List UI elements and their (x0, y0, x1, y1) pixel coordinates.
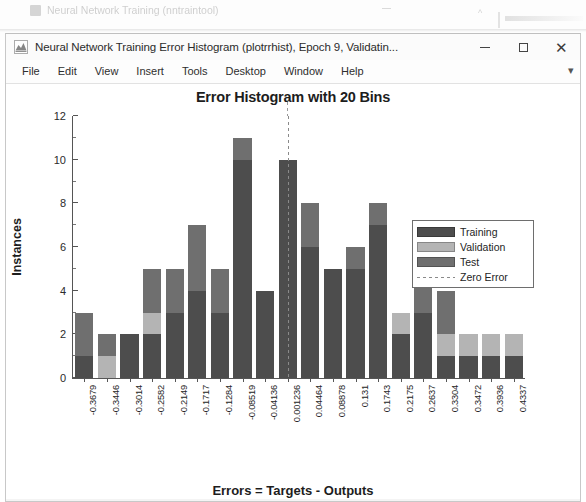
x-tick-label: -0.04136 (269, 385, 279, 420)
histogram-bar[interactable] (346, 247, 364, 378)
bar-segment-training (392, 334, 410, 378)
close-button[interactable]: ✕ (542, 34, 580, 60)
x-tick-mark (446, 378, 447, 382)
x-tick-label: -0.3679 (88, 385, 98, 415)
bar-segment-validation (482, 334, 500, 356)
histogram-bar[interactable] (256, 291, 274, 378)
close-icon: ✕ (555, 40, 568, 55)
minimize-icon (480, 47, 490, 48)
histogram-bar[interactable] (505, 334, 523, 378)
menu-overflow-icon[interactable]: ▾ (568, 64, 574, 77)
y-tick-label: 0 (60, 372, 66, 384)
histogram-bar[interactable] (120, 334, 138, 378)
x-tick-mark (469, 378, 470, 382)
legend-swatch-training (417, 227, 455, 237)
x-tick-mark (378, 378, 379, 382)
menu-item-help[interactable]: Help (332, 60, 373, 83)
background-minimize-icon (382, 8, 391, 9)
menu-item-window[interactable]: Window (275, 60, 332, 83)
x-tick-label: -0.2149 (179, 385, 189, 415)
histogram-bar[interactable] (166, 269, 184, 378)
minimize-button[interactable] (466, 34, 504, 60)
x-tick-label: 0.1743 (382, 385, 392, 412)
bar-segment-training (505, 356, 523, 378)
histogram-bar[interactable] (211, 269, 229, 378)
bar-segment-validation (143, 313, 161, 335)
y-tick-mark (73, 290, 78, 291)
bar-segment-test (301, 203, 319, 247)
chart-legend: Training Validation Test Zero Error (412, 220, 534, 288)
y-tick-mark (73, 115, 78, 116)
x-tick-mark (130, 378, 131, 382)
x-tick-mark (107, 378, 108, 382)
figure-canvas: Error Histogram with 20 Bins Instances 0… (6, 84, 580, 502)
x-tick-label: 0.3936 (495, 385, 505, 412)
legend-row-training: Training (417, 224, 529, 239)
figure-window: Neural Network Training Error Histogram … (5, 33, 581, 502)
window-title: Neural Network Training Error Histogram … (35, 41, 466, 53)
window-controls: ✕ (466, 34, 580, 60)
histogram-bar[interactable] (75, 313, 93, 379)
y-tick-mark (73, 202, 78, 203)
bar-segment-training (301, 247, 319, 378)
legend-label-zero-error: Zero Error (460, 271, 508, 283)
x-tick-label: -0.3014 (134, 385, 144, 415)
bar-segment-test (211, 269, 229, 313)
histogram-bar[interactable] (369, 203, 387, 378)
zero-error-line-extension (287, 102, 288, 116)
x-tick-mark (175, 378, 176, 382)
bar-segment-test (98, 334, 116, 356)
histogram-bar[interactable] (188, 225, 206, 378)
menu-item-file[interactable]: File (13, 60, 49, 83)
menu-item-view[interactable]: View (86, 60, 128, 83)
menu-item-edit[interactable]: Edit (49, 60, 86, 83)
x-tick-mark (243, 378, 244, 382)
x-tick-mark (84, 378, 85, 382)
legend-row-validation: Validation (417, 239, 529, 254)
legend-label-test: Test (460, 256, 479, 268)
x-tick-label: -0.08519 (247, 385, 257, 420)
histogram-bar[interactable] (233, 138, 251, 378)
bar-segment-test (437, 291, 455, 335)
legend-swatch-test (417, 257, 455, 267)
histogram-bar[interactable] (459, 334, 477, 378)
bar-segment-training (211, 313, 229, 379)
y-axis-label: Instances (10, 218, 24, 276)
histogram-bar[interactable] (392, 313, 410, 379)
x-tick-mark (356, 378, 357, 382)
background-window-edge (0, 29, 586, 32)
x-tick-label: -0.1284 (224, 385, 234, 415)
x-tick-label: -0.2582 (156, 385, 166, 415)
histogram-bar[interactable] (482, 334, 500, 378)
title-bar[interactable]: Neural Network Training Error Histogram … (6, 34, 580, 60)
y-tick-label: 2 (60, 328, 66, 340)
bar-segment-test (369, 203, 387, 225)
histogram-bar[interactable] (437, 291, 455, 378)
x-tick-label: 0.3304 (450, 385, 460, 412)
matlab-figure-icon (14, 40, 28, 54)
bar-segment-training (75, 356, 93, 378)
legend-row-test: Test (417, 254, 529, 269)
background-window-title: Neural Network Training (nntraintool) (47, 4, 219, 16)
legend-label-training: Training (460, 226, 498, 238)
menu-item-insert[interactable]: Insert (127, 60, 173, 83)
x-tick-mark (197, 378, 198, 382)
menu-item-desktop[interactable]: Desktop (217, 60, 275, 83)
x-tick-mark (491, 378, 492, 382)
bar-segment-test (75, 313, 93, 357)
histogram-bar[interactable] (301, 203, 319, 378)
maximize-button[interactable] (504, 34, 542, 60)
menu-item-tools[interactable]: Tools (173, 60, 217, 83)
x-tick-label: 0.4337 (518, 385, 528, 412)
x-tick-label: -0.3446 (111, 385, 121, 415)
bar-segment-training (233, 160, 251, 378)
bar-segment-validation (437, 334, 455, 356)
bar-segment-test (143, 269, 161, 313)
x-tick-mark (288, 378, 289, 382)
histogram-bar[interactable] (98, 334, 116, 378)
bar-segment-training (120, 334, 138, 378)
bar-segment-training (166, 313, 184, 379)
histogram-bar[interactable] (324, 269, 342, 378)
histogram-bar[interactable] (143, 269, 161, 378)
menu-bar: File Edit View Insert Tools Desktop Wind… (6, 60, 580, 84)
